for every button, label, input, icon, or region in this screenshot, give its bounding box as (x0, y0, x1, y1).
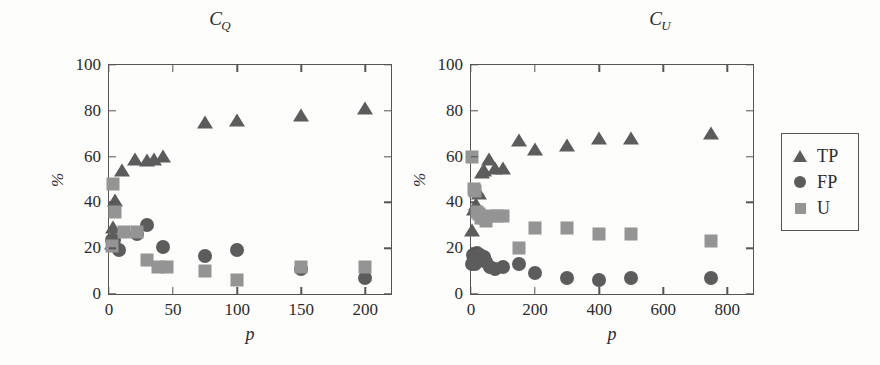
data-point-tp (114, 164, 130, 177)
data-point-u (199, 265, 212, 278)
data-point-tp (591, 131, 607, 144)
y-tick-label-cu-20: 20 (446, 238, 463, 258)
data-point-u (131, 226, 144, 239)
x-tick-top-cq-50 (172, 65, 173, 72)
y-tick-label-cq-100: 100 (76, 55, 102, 75)
x-tick-label-cu-400: 400 (586, 300, 612, 320)
x-axis-label-cu: p (608, 324, 617, 345)
panel-cq: CQ % p 050100150200020406080100 (0, 0, 440, 365)
y-tick-cq-20 (109, 247, 116, 248)
y-tick-right-cu-100 (746, 64, 753, 65)
x-tick-cu-400 (598, 287, 599, 294)
y-tick-label-cu-100: 100 (438, 55, 464, 75)
data-point-fp (496, 260, 510, 274)
data-point-fp (560, 271, 574, 285)
legend-entry-u: U (790, 195, 852, 221)
y-tick-cu-20 (471, 247, 478, 248)
y-tick-label-cu-60: 60 (446, 146, 463, 166)
data-point-tp (703, 127, 719, 140)
panel-title-cu-sub: U (661, 18, 671, 33)
y-tick-right-cq-0 (384, 293, 391, 294)
legend-label-tp: TP (817, 146, 839, 167)
data-point-u (529, 221, 542, 234)
plotarea-cu (471, 65, 753, 294)
data-point-fp (624, 271, 638, 285)
y-tick-right-cu-80 (746, 110, 753, 111)
figure-root: CQ % p 050100150200020406080100 CU % p 0… (0, 0, 880, 365)
y-tick-cq-60 (109, 156, 116, 157)
data-point-u (497, 210, 510, 223)
data-point-u (513, 242, 526, 255)
x-tick-cq-150 (301, 287, 302, 294)
axes-cu: % p 0200400600800020406080100 (470, 64, 754, 295)
panel-title-cq: CQ (0, 8, 440, 34)
data-point-tp (464, 223, 480, 236)
y-tick-cq-100 (109, 64, 116, 65)
data-point-tp (357, 102, 373, 115)
data-point-tp (197, 115, 213, 128)
data-point-u (106, 178, 119, 191)
y-tick-cu-100 (471, 64, 478, 65)
y-axis-label-cq: % (48, 172, 68, 186)
data-point-u (109, 205, 122, 218)
x-tick-cq-200 (365, 287, 366, 294)
y-tick-label-cq-20: 20 (84, 238, 101, 258)
triangle-marker-icon (790, 150, 810, 162)
data-point-fp (528, 266, 542, 280)
data-point-u (593, 228, 606, 241)
y-tick-right-cu-20 (746, 247, 753, 248)
data-point-tp (511, 134, 527, 147)
data-point-tp (229, 113, 245, 126)
x-tick-top-cq-150 (301, 65, 302, 72)
x-tick-top-cu-800 (727, 65, 728, 72)
y-tick-label-cu-40: 40 (446, 192, 463, 212)
data-point-tp (293, 109, 309, 122)
x-tick-top-cu-400 (598, 65, 599, 72)
x-tick-label-cq-100: 100 (224, 300, 250, 320)
x-tick-label-cu-800: 800 (715, 300, 741, 320)
y-tick-cq-80 (109, 110, 116, 111)
x-tick-top-cu-600 (663, 65, 664, 72)
x-tick-cq-50 (172, 287, 173, 294)
y-tick-right-cu-60 (746, 156, 753, 157)
y-tick-right-cq-100 (384, 64, 391, 65)
y-tick-label-cq-60: 60 (84, 146, 101, 166)
legend-entry-tp: TP (790, 143, 852, 169)
x-tick-top-cq-0 (108, 65, 109, 72)
data-point-u (705, 235, 718, 248)
y-tick-right-cq-40 (384, 202, 391, 203)
x-tick-label-cq-200: 200 (353, 300, 379, 320)
data-point-u (359, 260, 372, 273)
panel-title-cq-sub: Q (221, 18, 231, 33)
y-tick-cq-0 (109, 293, 116, 294)
y-axis-label-cu: % (410, 172, 430, 186)
circle-marker-icon (790, 176, 810, 188)
y-tick-cq-40 (109, 202, 116, 203)
axes-cq: % p 050100150200020406080100 (108, 64, 392, 295)
panel-title-cu: CU (440, 8, 880, 34)
data-point-u (231, 274, 244, 287)
data-point-fp (358, 271, 372, 285)
y-tick-label-cu-80: 80 (446, 100, 463, 120)
y-tick-cu-0 (471, 293, 478, 294)
data-point-tp (559, 138, 575, 151)
y-tick-right-cu-0 (746, 293, 753, 294)
x-tick-cu-800 (727, 287, 728, 294)
data-point-fp (512, 257, 526, 271)
x-axis-label-cq: p (246, 324, 255, 345)
plotarea-cq (109, 65, 391, 294)
x-tick-label-cu-200: 200 (522, 300, 548, 320)
data-point-u (625, 228, 638, 241)
x-tick-top-cq-200 (365, 65, 366, 72)
legend-label-u: U (817, 198, 830, 219)
y-tick-label-cq-80: 80 (84, 100, 101, 120)
data-point-fp (592, 273, 606, 287)
data-point-tp (495, 161, 511, 174)
y-tick-label-cu-0: 0 (455, 284, 464, 304)
legend-label-fp: FP (817, 172, 838, 193)
x-tick-cu-200 (534, 287, 535, 294)
x-tick-cu-600 (663, 287, 664, 294)
y-tick-cu-60 (471, 156, 478, 157)
x-tick-label-cq-0: 0 (105, 300, 114, 320)
data-point-tp (623, 131, 639, 144)
